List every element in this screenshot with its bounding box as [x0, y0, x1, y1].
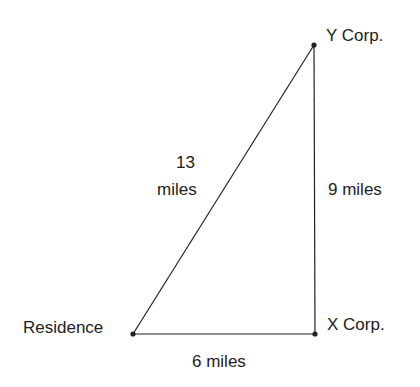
- hypotenuse-label-number: 13: [176, 153, 195, 173]
- residence-label: Residence: [23, 318, 103, 338]
- point-x-corp: [312, 331, 317, 336]
- vertical-edge-label: 9 miles: [328, 180, 382, 200]
- x-corp-label: X Corp.: [327, 315, 385, 335]
- y-corp-label: Y Corp.: [326, 26, 383, 46]
- hypotenuse-label-unit: miles: [157, 180, 197, 200]
- point-y-corp: [311, 42, 316, 47]
- edge-x-corp-to-y-corp: [314, 45, 315, 334]
- horizontal-edge-label: 6 miles: [192, 352, 246, 372]
- point-residence: [130, 331, 135, 336]
